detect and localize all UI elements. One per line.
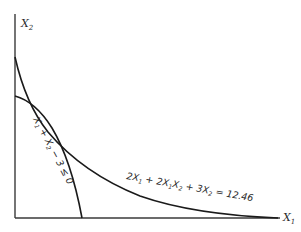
objective-label: 2X1 + 2X1X2 + 3X2 = 12.46 (125, 170, 254, 204)
constraint-label: X1 + X2 − 3 ≤ 0 (30, 114, 76, 187)
diagram-canvas: X2 X1 X1 + X2 − 3 ≤ 0 2X1 + 2X1X2 + 3X2 … (0, 0, 301, 232)
y-axis-label: X2 (20, 17, 34, 32)
constraint-boundary-curve (15, 96, 82, 218)
x-axis-label: X1 (282, 211, 295, 226)
